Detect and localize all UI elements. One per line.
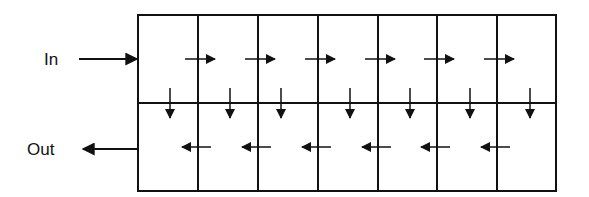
grid-cells [138, 15, 556, 191]
out-label: Out [27, 141, 54, 158]
counterflow-grid-diagram [0, 0, 589, 197]
in-label: In [44, 51, 58, 68]
